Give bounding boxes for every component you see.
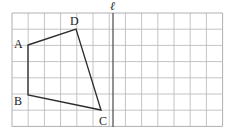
vertex-label-b: B xyxy=(14,95,22,107)
line-label-l: ℓ xyxy=(110,0,115,12)
figure-canvas xyxy=(0,0,229,134)
grid-lines xyxy=(12,13,223,126)
vertex-label-d: D xyxy=(70,15,79,27)
quadrilateral-abcd xyxy=(28,29,101,110)
vertex-label-a: A xyxy=(14,38,23,50)
vertex-label-c: C xyxy=(99,115,107,127)
geometry-figure: ℓ ADCB xyxy=(0,0,229,134)
